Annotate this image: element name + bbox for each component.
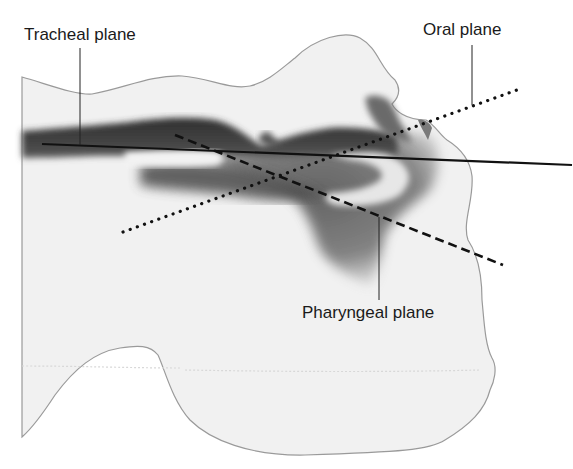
tongue-tip <box>125 150 223 167</box>
tracheal-plane-label: Tracheal plane <box>24 26 136 43</box>
oral-plane-label: Oral plane <box>423 21 501 38</box>
pharyngeal-plane-label: Pharyngeal plane <box>302 304 434 321</box>
airway-diagram <box>0 0 573 469</box>
head-outline <box>22 35 495 455</box>
